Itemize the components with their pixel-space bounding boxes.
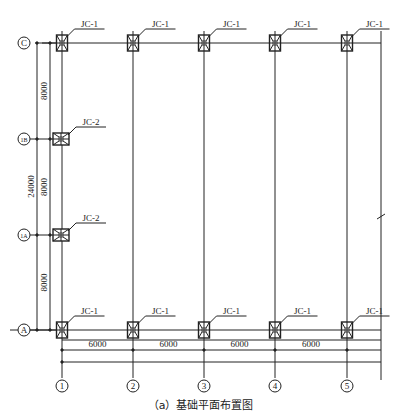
footing-label: JC-1 bbox=[81, 19, 98, 29]
dim-tick bbox=[49, 42, 51, 44]
dim-label-segment: 8000 bbox=[39, 82, 49, 101]
dim-label-span: 6000 bbox=[302, 339, 321, 349]
footing-jc-1: JC-1 bbox=[342, 19, 390, 51]
footing-leader bbox=[209, 316, 217, 324]
dim-tick bbox=[36, 234, 38, 236]
footing-jc-1: JC-1 bbox=[57, 306, 105, 338]
footing-leader bbox=[352, 29, 360, 37]
axis-label-5: 5 bbox=[345, 381, 350, 391]
dim-tick bbox=[346, 349, 348, 351]
dim-label-span: 6000 bbox=[160, 339, 179, 349]
footing-leader bbox=[138, 29, 146, 37]
dim-tick bbox=[132, 349, 134, 351]
footing-label: JC-1 bbox=[152, 306, 169, 316]
footing-jc-2: JC-2 bbox=[53, 117, 106, 145]
footing-label: JC-2 bbox=[82, 213, 99, 223]
axis-label-1: 1 bbox=[60, 381, 65, 391]
footing-leader bbox=[68, 127, 76, 135]
axis-label-A: A bbox=[21, 325, 28, 335]
axis-label-1B: 1B bbox=[20, 137, 27, 143]
dim-tick bbox=[203, 349, 205, 351]
axis-label-4: 4 bbox=[273, 381, 278, 391]
footing-label: JC-1 bbox=[223, 19, 240, 29]
footing-label: JC-1 bbox=[294, 306, 311, 316]
dim-label-span: 6000 bbox=[89, 339, 108, 349]
dim-tick bbox=[61, 349, 63, 351]
footing-jc-1: JC-1 bbox=[199, 19, 247, 51]
dim-tick bbox=[274, 349, 276, 351]
footing-label: JC-2 bbox=[82, 117, 99, 127]
dim-label-segment: 8000 bbox=[39, 178, 49, 197]
footing-jc-1: JC-1 bbox=[199, 306, 247, 338]
footing-leader bbox=[67, 29, 75, 37]
dim-tick bbox=[49, 329, 51, 331]
footing-label: JC-1 bbox=[294, 19, 311, 29]
dim-label-total: 24000 bbox=[26, 175, 36, 198]
dim-tick bbox=[61, 361, 63, 363]
foundation-plan-drawing: JC-1JC-1JC-1JC-1JC-1JC-2JC-2JC-1JC-1JC-1… bbox=[0, 0, 401, 411]
dim-tick bbox=[36, 42, 38, 44]
footing-leader bbox=[352, 316, 360, 324]
dim-tick bbox=[49, 138, 51, 140]
footing-jc-1: JC-1 bbox=[128, 306, 176, 338]
footing-label: JC-1 bbox=[366, 306, 383, 316]
footing-leader bbox=[209, 29, 217, 37]
footing-leader bbox=[138, 316, 146, 324]
footing-label: JC-1 bbox=[366, 19, 383, 29]
footing-jc-1: JC-1 bbox=[57, 19, 105, 51]
axis-label-3: 3 bbox=[202, 381, 207, 391]
dim-tick bbox=[36, 138, 38, 140]
dim-tick bbox=[36, 329, 38, 331]
footing-jc-1: JC-1 bbox=[270, 19, 318, 51]
footing-leader bbox=[68, 223, 76, 231]
footing-leader bbox=[280, 316, 288, 324]
axis-label-1A: 1A bbox=[20, 233, 28, 239]
footing-leader bbox=[280, 29, 288, 37]
footing-jc-2: JC-2 bbox=[53, 213, 106, 241]
footing-label: JC-1 bbox=[152, 19, 169, 29]
axis-label-C: C bbox=[21, 38, 27, 48]
footing-label: JC-1 bbox=[81, 306, 98, 316]
footing-jc-1: JC-1 bbox=[128, 19, 176, 51]
dim-label-segment: 8000 bbox=[39, 273, 49, 292]
footing-jc-1: JC-1 bbox=[270, 306, 318, 338]
dim-tick bbox=[49, 234, 51, 236]
footing-label: JC-1 bbox=[223, 306, 240, 316]
dim-label-span: 6000 bbox=[231, 339, 250, 349]
footing-leader bbox=[67, 316, 75, 324]
axis-label-2: 2 bbox=[131, 381, 136, 391]
footing-jc-1: JC-1 bbox=[342, 306, 390, 338]
drawing-caption: （a）基础平面布置图 bbox=[0, 396, 401, 411]
